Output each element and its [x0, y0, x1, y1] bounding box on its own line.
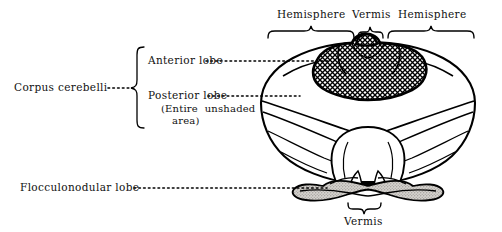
cerebellum-diagram: Corpus cerebelli Anterior lobe Posterior… [0, 0, 502, 232]
label-corpus-cerebelli: Corpus cerebelli [14, 81, 108, 94]
label-hemisphere-right: Hemisphere [398, 8, 467, 21]
label-hemisphere-left: Hemisphere [277, 8, 346, 21]
inferior-vermis-dome [332, 127, 405, 182]
label-vermis-top: Vermis [352, 8, 391, 21]
label-anterior-lobe: Anterior lobe [148, 54, 223, 67]
corpus-cerebelli-brace [131, 47, 144, 128]
anterior-lobe-region [313, 34, 426, 101]
label-posterior-lobe: Posterior lobe [148, 89, 227, 102]
anterior-vermis-bump [356, 35, 377, 46]
cerebellum-figure [0, 0, 502, 232]
vermis-bottom-brace [348, 203, 381, 214]
label-posterior-lobe-note-line2: area) [172, 114, 200, 127]
label-flocculonodular-lobe: Flocculonodular lobe [20, 181, 139, 194]
label-vermis-bottom: Vermis [344, 215, 383, 228]
hemisphere-left-brace [268, 26, 354, 38]
vermis-bottom-brace-group [348, 203, 381, 214]
hemisphere-right-brace [388, 26, 474, 38]
